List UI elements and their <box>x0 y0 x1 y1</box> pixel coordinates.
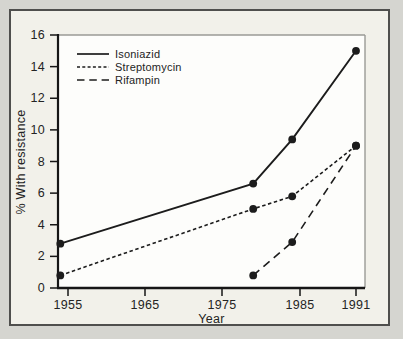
data-point-streptomycin <box>249 205 257 213</box>
x-tick-label: 1955 <box>53 298 82 312</box>
data-point-streptomycin <box>56 272 64 280</box>
legend-item-streptomycin: Streptomycin <box>77 60 182 73</box>
chart-plot: 024681012141619551965197519851991 <box>0 0 403 339</box>
legend-line-solid-icon <box>77 51 109 57</box>
x-tick-label: 1985 <box>285 298 314 312</box>
y-tick-label: 6 <box>38 186 45 200</box>
y-tick-label: 0 <box>38 281 45 295</box>
x-tick-label: 1991 <box>341 298 370 312</box>
y-tick-label: 12 <box>30 91 45 105</box>
data-point-isoniazid <box>249 180 257 188</box>
y-tick-label: 4 <box>38 218 45 232</box>
x-tick-label: 1975 <box>207 298 236 312</box>
x-axis-title: Year <box>58 312 365 326</box>
legend-item-rifampin: Rifampin <box>77 73 182 86</box>
legend: Isoniazid Streptomycin Rifampin <box>77 47 182 86</box>
data-point-rifampin <box>288 238 296 246</box>
x-tick-label: 1965 <box>130 298 159 312</box>
data-point-isoniazid <box>288 136 296 144</box>
data-point-rifampin <box>249 272 257 280</box>
data-point-rifampin <box>352 142 360 150</box>
legend-item-isoniazid: Isoniazid <box>77 47 182 60</box>
y-tick-label: 16 <box>30 28 45 42</box>
data-point-isoniazid <box>352 47 360 55</box>
legend-line-short-dash-icon <box>77 64 109 70</box>
data-point-isoniazid <box>56 240 64 248</box>
y-tick-label: 14 <box>30 60 45 74</box>
y-tick-label: 2 <box>38 249 45 263</box>
y-tick-label: 8 <box>38 155 45 169</box>
legend-line-long-dash-icon <box>77 77 109 83</box>
legend-label-isoniazid: Isoniazid <box>115 48 160 60</box>
legend-label-streptomycin: Streptomycin <box>115 61 182 73</box>
legend-label-rifampin: Rifampin <box>115 74 160 86</box>
y-tick-label: 10 <box>30 123 45 137</box>
figure-background: 024681012141619551965197519851991 % With… <box>0 0 403 339</box>
data-point-streptomycin <box>288 192 296 200</box>
